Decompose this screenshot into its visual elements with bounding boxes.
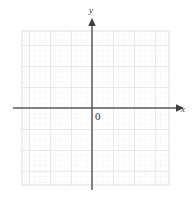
- coordinate-grid-svg: [0, 0, 195, 197]
- coordinate-plane-figure: y x 0: [0, 0, 195, 197]
- origin-label: 0: [95, 111, 101, 122]
- x-axis-label: x: [181, 105, 185, 114]
- y-axis-label: y: [89, 6, 93, 15]
- y-axis-arrow-icon: [88, 18, 96, 26]
